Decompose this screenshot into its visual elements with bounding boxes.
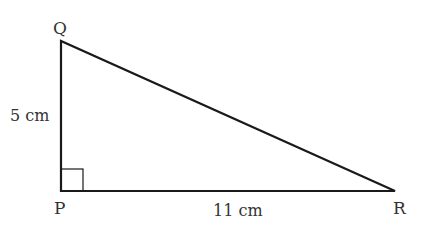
right-angle-marker <box>61 169 83 191</box>
triangle-diagram: Q P R 5 cm 11 cm <box>0 0 426 231</box>
triangle-pqr <box>61 41 395 191</box>
side-label-pq: 5 cm <box>10 106 49 125</box>
vertex-label-r: R <box>393 198 407 218</box>
vertex-label-q: Q <box>53 18 67 38</box>
side-label-pr: 11 cm <box>213 201 263 220</box>
vertex-label-p: P <box>54 198 65 218</box>
